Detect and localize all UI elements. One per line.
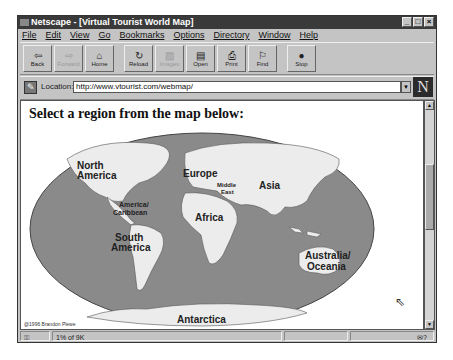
close-button[interactable]: × <box>424 17 434 27</box>
open-icon: ▤ <box>196 50 205 61</box>
open-label: Open <box>193 61 208 67</box>
scroll-up-button[interactable]: ▲ <box>425 101 434 110</box>
status-progress: 1% of 9K <box>52 331 282 341</box>
open-button[interactable]: ▤ Open <box>186 45 215 72</box>
status-progress-bar <box>284 331 348 341</box>
menu-bookmarks[interactable]: Bookmarks <box>119 29 164 41</box>
menu-file[interactable]: File <box>22 29 37 41</box>
navigation-toolbar: ⇦ Back ⇨ Forward ⌂ Home ↻ Reload ▨ Image… <box>20 42 434 75</box>
back-button[interactable]: ⇦ Back <box>23 45 52 72</box>
menu-help[interactable]: Help <box>299 29 318 41</box>
scroll-thumb[interactable] <box>425 164 434 230</box>
title-bar[interactable]: Netscape - [Virtual Tourist World Map] _… <box>18 16 436 29</box>
images-button[interactable]: ▨ Images <box>155 45 184 72</box>
map-credit: @1996 Brandon Plewe <box>24 321 76 327</box>
menu-window[interactable]: Window <box>258 29 290 41</box>
vertical-scrollbar[interactable]: ▲ ▼ <box>424 100 435 330</box>
url-input[interactable]: http://www.vtourist.com/webmap/ <box>73 81 401 93</box>
stop-icon: ● <box>298 50 304 61</box>
status-bar: ⚿ 1% of 9K ✉? <box>20 331 434 342</box>
security-key-icon: ⚿ <box>20 331 50 341</box>
label-oceania[interactable]: Oceania <box>307 261 346 272</box>
forward-label: Forward <box>57 61 79 67</box>
back-arrow-icon: ⇦ <box>34 50 42 61</box>
binoculars-icon: ⚐ <box>258 50 267 61</box>
label-africa[interactable]: Africa <box>195 212 224 223</box>
label-middle-east[interactable]: Middle <box>217 182 237 188</box>
stop-label: Stop <box>295 61 307 67</box>
menu-directory[interactable]: Directory <box>213 29 249 41</box>
images-icon: ▨ <box>165 50 174 61</box>
maximize-button[interactable]: □ <box>413 17 423 27</box>
menu-bar: File Edit View Go Bookmarks Options Dire… <box>18 29 436 41</box>
images-label: Images <box>160 61 180 67</box>
menu-go[interactable]: Go <box>98 29 110 41</box>
page-content: Select a region from the map below: Nort… <box>20 100 424 330</box>
home-label: Home <box>91 61 107 67</box>
forward-arrow-icon: ⇨ <box>65 50 73 61</box>
label-antarctica[interactable]: Antarctica <box>177 314 226 325</box>
printer-icon: ⎙ <box>228 50 236 61</box>
location-label: Location: <box>41 82 73 91</box>
stop-button[interactable]: ● Stop <box>287 45 316 72</box>
forward-button[interactable]: ⇨ Forward <box>54 45 83 72</box>
world-map[interactable]: North America America/ Caribbean South A… <box>27 131 377 327</box>
bookmark-link-icon[interactable]: ✎ <box>24 81 37 94</box>
home-icon: ⌂ <box>96 50 102 61</box>
window-title: Netscape - [Virtual Tourist World Map] <box>31 16 194 29</box>
netscape-app-icon[interactable] <box>20 19 29 26</box>
label-caribbean-2[interactable]: Caribbean <box>113 209 147 216</box>
label-middle-east-2[interactable]: East <box>221 189 234 195</box>
menu-edit[interactable]: Edit <box>46 29 62 41</box>
home-button[interactable]: ⌂ Home <box>85 45 114 72</box>
menu-view[interactable]: View <box>70 29 89 41</box>
label-europe[interactable]: Europe <box>183 168 218 179</box>
reload-button[interactable]: ↻ Reload <box>124 45 153 72</box>
mail-icon[interactable]: ✉? <box>350 331 434 341</box>
label-caribbean[interactable]: America/ <box>119 201 149 208</box>
browser-window: Netscape - [Virtual Tourist World Map] _… <box>17 15 437 343</box>
url-dropdown-button[interactable]: ▼ <box>401 81 411 93</box>
print-button[interactable]: ⎙ Print <box>217 45 246 72</box>
minimize-button[interactable]: _ <box>402 17 412 27</box>
mouse-pointer-icon: ⇖ <box>395 295 405 309</box>
netscape-logo-icon[interactable]: N <box>413 77 433 97</box>
scroll-down-button[interactable]: ▼ <box>425 320 434 329</box>
print-label: Print <box>225 61 237 67</box>
find-button[interactable]: ⚐ Find <box>248 45 277 72</box>
reload-icon: ↻ <box>135 50 143 61</box>
page-heading: Select a region from the map below: <box>29 106 244 122</box>
label-north-america-2[interactable]: America <box>77 170 117 181</box>
label-south-america-2[interactable]: America <box>111 242 151 253</box>
label-asia[interactable]: Asia <box>259 180 281 191</box>
menu-options[interactable]: Options <box>173 29 204 41</box>
find-label: Find <box>257 61 269 67</box>
reload-label: Reload <box>129 61 148 67</box>
back-label: Back <box>31 61 44 67</box>
label-australia[interactable]: Australia/ <box>305 250 351 261</box>
location-bar: ✎ Location: http://www.vtourist.com/webm… <box>20 76 434 100</box>
